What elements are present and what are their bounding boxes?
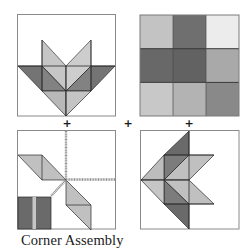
- plus-operators: + + +: [62, 117, 193, 130]
- plus-sign-right: +: [184, 117, 193, 130]
- corner-seam-block: [18, 131, 116, 231]
- flower-block-left: [141, 131, 240, 230]
- plus-sign-center: +: [123, 117, 132, 130]
- nine-patch-block: [140, 15, 239, 116]
- flower-block-top: [18, 15, 116, 117]
- diagram-caption: Corner Assembly: [21, 232, 121, 249]
- corner-assembly-diagram: + + +: [0, 0, 248, 249]
- plus-sign-left: +: [62, 117, 71, 130]
